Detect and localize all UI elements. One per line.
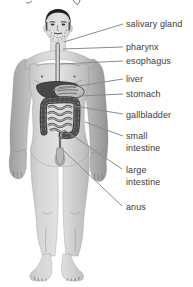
label-gallbladder: gallbladder bbox=[126, 109, 171, 121]
right-foot bbox=[62, 254, 84, 281]
leader-line-salivary-gland bbox=[64, 24, 123, 42]
left-nipple bbox=[41, 75, 43, 77]
label-anus: anus bbox=[126, 201, 146, 213]
head bbox=[46, 12, 71, 43]
leader-line-pharynx bbox=[63, 47, 123, 49]
label-small-intestine: small intestine bbox=[126, 130, 160, 154]
label-esophagus: esophagus bbox=[126, 55, 171, 67]
label-salivary-gland: salivary gland bbox=[126, 18, 182, 30]
label-liver: liver bbox=[126, 73, 143, 85]
label-pharynx: pharynx bbox=[126, 41, 159, 53]
cropped-title-remnant bbox=[26, 0, 80, 5]
human-figure-illustration bbox=[0, 0, 193, 287]
label-stomach: stomach bbox=[126, 88, 161, 100]
anatomy-diagram: salivary gland pharynx esophagus liver s… bbox=[0, 0, 193, 287]
label-large-intestine: large intestine bbox=[126, 164, 160, 188]
right-nipple bbox=[73, 75, 75, 77]
left-foot bbox=[30, 254, 52, 281]
